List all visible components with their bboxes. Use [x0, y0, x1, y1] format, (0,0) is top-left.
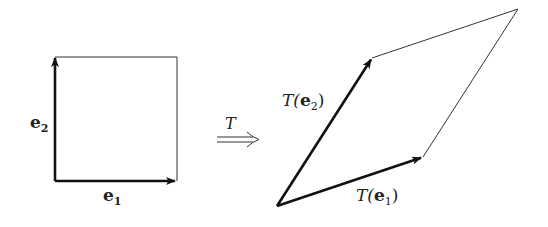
e2-label: e2 [30, 112, 48, 135]
double-arrow-head-icon [247, 132, 259, 147]
Te1-label: T(e1) [356, 185, 398, 208]
Te2-label: T(e2) [282, 90, 324, 113]
transformation-arrow: T [217, 114, 259, 147]
Te1-vector-arrow [277, 158, 421, 206]
parallelogram-right-edge [423, 9, 518, 157]
parallelogram-top-edge [372, 9, 518, 58]
transformation-diagram: e1 e2 T T(e1) T(e2) [0, 0, 548, 227]
transformation-label: T [225, 114, 237, 133]
e1-label: e1 [103, 185, 121, 208]
unit-square [55, 57, 177, 181]
